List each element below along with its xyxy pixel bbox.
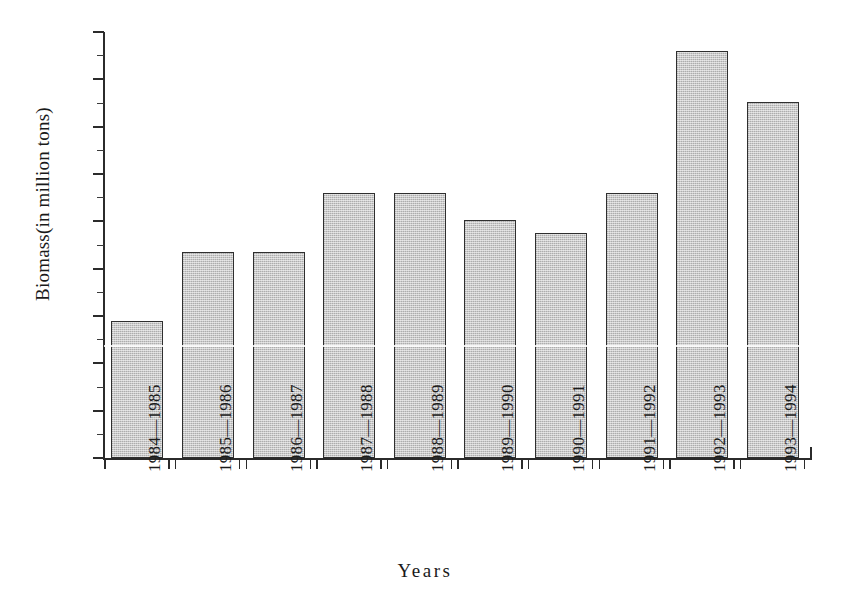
- x-tick: [528, 458, 530, 469]
- y-minor-tick: [97, 197, 104, 198]
- x-axis-title: Years: [0, 560, 850, 582]
- x-axis-title-text: Years: [398, 560, 453, 581]
- y-minor-tick: [97, 103, 104, 104]
- x-tick: [387, 458, 389, 469]
- y-tick-0.0: [93, 457, 104, 459]
- x-tick-label: 1990—1991: [569, 384, 589, 472]
- y-tick-0.5: [93, 410, 104, 412]
- x-tick: [175, 458, 177, 469]
- x-tick: [310, 458, 312, 469]
- x-tick: [239, 458, 241, 469]
- x-tick: [451, 458, 453, 469]
- y-minor-tick: [97, 245, 104, 246]
- x-tick: [804, 458, 806, 469]
- y-minor-tick: [97, 434, 104, 435]
- x-tick: [104, 458, 106, 469]
- y-minor-tick: [97, 292, 104, 293]
- y-tick-2.0: [93, 268, 104, 270]
- y-tick-2.5: [93, 220, 104, 222]
- y-minor-tick: [97, 339, 104, 340]
- y-tick-4.5: [93, 31, 104, 33]
- x-axis-end-tick: [810, 447, 812, 460]
- x-tick: [457, 458, 459, 469]
- x-tick: [663, 458, 665, 469]
- plot-area: 0.00.51.01.52.02.53.03.54.04.5 1984—1985…: [104, 32, 810, 458]
- y-minor-tick: [97, 55, 104, 56]
- y-axis-title: Biomass(in million tons): [32, 74, 54, 334]
- x-tick-label: 1993—1994: [781, 384, 801, 472]
- y-minor-tick: [97, 387, 104, 388]
- x-tick: [733, 458, 735, 469]
- x-tick-label: 1987—1988: [357, 384, 377, 472]
- x-tick-label: 1992—1993: [710, 384, 730, 472]
- y-minor-tick: [97, 150, 104, 151]
- x-tick: [669, 458, 671, 469]
- x-tick: [740, 458, 742, 469]
- x-tick-label: 1984—1985: [145, 384, 165, 472]
- x-tick-label: 1985—1986: [216, 384, 236, 472]
- x-tick: [316, 458, 318, 469]
- y-tick-3.5: [93, 126, 104, 128]
- x-tick: [592, 458, 594, 469]
- x-tick: [599, 458, 601, 469]
- y-tick-3.0: [93, 173, 104, 175]
- x-tick: [168, 458, 170, 469]
- y-tick-1.0: [93, 362, 104, 364]
- x-tick-label: 1989—1990: [498, 384, 518, 472]
- x-tick: [246, 458, 248, 469]
- y-tick-4.0: [93, 78, 104, 80]
- y-axis-line: [103, 32, 105, 459]
- bar-chart-figure: Biomass(in million tons) 0.00.51.01.52.0…: [0, 0, 850, 597]
- x-tick-label: 1991—1992: [640, 384, 660, 472]
- y-tick-1.5: [93, 315, 104, 317]
- x-tick: [521, 458, 523, 469]
- x-tick-label: 1986—1987: [287, 384, 307, 472]
- x-tick: [380, 458, 382, 469]
- x-tick-label: 1988—1989: [428, 384, 448, 472]
